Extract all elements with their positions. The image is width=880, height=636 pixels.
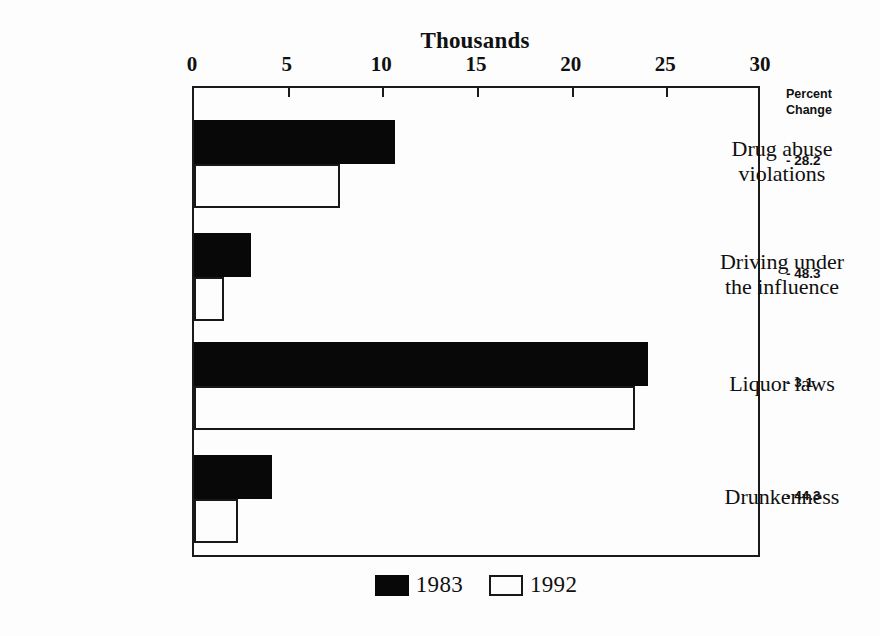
bar-1983-group-4 (194, 455, 272, 499)
legend-label-1983: 1983 (416, 572, 463, 598)
category-label-line: Drunkenness (694, 485, 870, 510)
percent-change-value-2: - 48.3 (786, 266, 821, 281)
percent-change-header-line: Percent (786, 86, 832, 102)
percent-change-value-4: - 44.3 (786, 488, 821, 503)
bar-1983-group-2 (194, 233, 251, 277)
x-tick-mark-10 (382, 88, 384, 97)
percent-change-header: PercentChange (786, 86, 832, 119)
bar-1992-group-4 (194, 499, 238, 543)
chart-legend: 1983 1992 (192, 572, 760, 598)
x-tick-label-5: 5 (281, 52, 292, 77)
category-label-line: the influence (694, 275, 870, 300)
x-tick-label-0: 0 (187, 52, 198, 77)
x-tick-mark-5 (288, 88, 290, 97)
x-tick-label-20: 20 (560, 52, 581, 77)
x-axis-tick-labels: 051015202530 (192, 52, 760, 78)
legend-label-1992: 1992 (530, 572, 577, 598)
legend-swatch-1983 (375, 575, 409, 596)
x-tick-label-10: 10 (371, 52, 392, 77)
category-label-line: Drug abuse (694, 137, 870, 162)
bar-1992-group-3 (194, 386, 635, 430)
percent-change-value-3: - 3.1 (786, 375, 813, 390)
legend-swatch-1992 (489, 575, 523, 596)
category-label-line: Liquor laws (694, 372, 870, 397)
x-tick-label-25: 25 (655, 52, 676, 77)
bar-1983-group-3 (194, 342, 648, 386)
percent-change-header-line: Change (786, 102, 832, 118)
category-label-line: violations (694, 162, 870, 187)
bar-1992-group-2 (194, 277, 224, 321)
x-tick-mark-25 (666, 88, 668, 97)
percent-change-value-1: - 28.2 (786, 153, 821, 168)
axis-title-thousands: Thousands (380, 28, 570, 54)
x-tick-label-30: 30 (750, 52, 771, 77)
legend-item-1983: 1983 (375, 572, 463, 598)
x-tick-mark-20 (572, 88, 574, 97)
category-label-line: Driving under (694, 250, 870, 275)
bar-1992-group-1 (194, 164, 340, 208)
plot-area (192, 86, 760, 557)
x-tick-mark-15 (477, 88, 479, 97)
legend-item-1992: 1992 (489, 572, 577, 598)
x-tick-label-15: 15 (466, 52, 487, 77)
bar-1983-group-1 (194, 120, 395, 164)
chart-page: Thousands 051015202530 PercentChange 198… (0, 0, 880, 636)
